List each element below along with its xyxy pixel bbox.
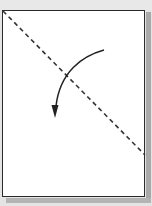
valley-fold-dashed-line [3,11,145,155]
fold-arrow-curve [56,50,104,106]
fold-arrowhead-icon [52,105,59,118]
fold-diagram-overlay [0,0,152,206]
